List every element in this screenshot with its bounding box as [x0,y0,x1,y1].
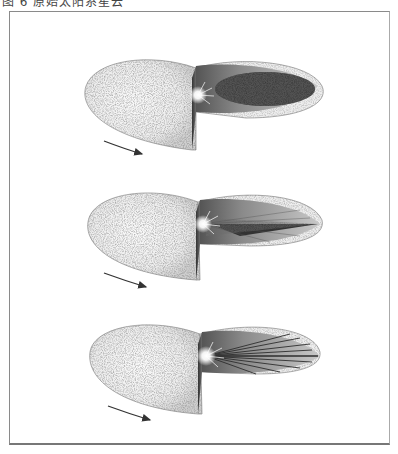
nebula-stage-3 [90,325,320,420]
rotation-arrow [104,273,146,287]
nebula-stage-1 [85,60,323,154]
rotation-arrow [104,141,142,154]
rotation-arrow [108,406,150,420]
nebula-diagram [0,0,398,454]
nebula-stage-2 [88,193,323,287]
